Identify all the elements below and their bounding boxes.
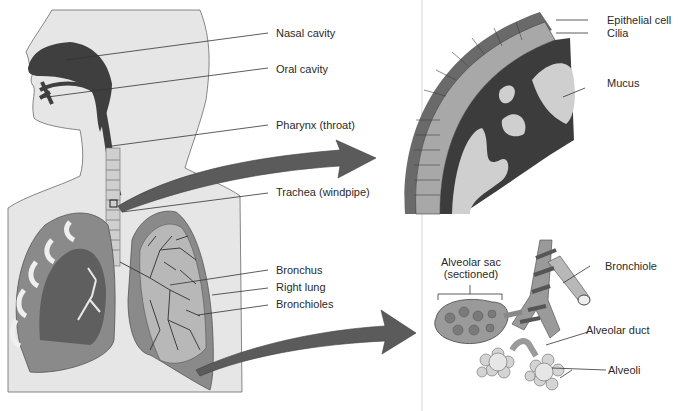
label-oral-cavity: Oral cavity xyxy=(276,63,328,75)
label-bronchioles: Bronchioles xyxy=(276,298,333,310)
label-mucus: Mucus xyxy=(607,77,639,89)
label-alveolar-sac-line2: (sectioned) xyxy=(436,268,506,280)
label-trachea: Trachea (windpipe) xyxy=(276,186,370,198)
label-pharynx: Pharynx (throat) xyxy=(276,119,355,131)
label-alveolar-duct: Alveolar duct xyxy=(586,324,650,336)
alveoli-cluster-right xyxy=(525,354,564,390)
label-alveoli: Alveoli xyxy=(608,364,640,376)
label-alveolar-sac: Alveolar sac (sectioned) xyxy=(436,256,506,280)
alveoli-cluster-left xyxy=(477,348,514,378)
label-epithelial-cell: Epithelial cell xyxy=(607,14,671,26)
label-alveolar-sac-line1: Alveolar sac xyxy=(436,256,506,268)
alveolar-sac-sectioned xyxy=(435,299,508,343)
bronchiole-tube xyxy=(512,240,590,338)
label-right-lung: Right lung xyxy=(276,281,326,293)
label-bronchus: Bronchus xyxy=(276,264,322,276)
label-bronchiole: Bronchiole xyxy=(605,260,657,272)
label-nasal-cavity: Nasal cavity xyxy=(276,27,335,39)
label-cilia: Cilia xyxy=(607,27,628,39)
diagram-artwork xyxy=(0,0,679,411)
